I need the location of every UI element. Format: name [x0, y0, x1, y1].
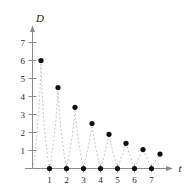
x-tick-label: 1 — [47, 175, 52, 185]
x-tick-labels: 1 2 3 4 5 6 7 — [47, 175, 154, 185]
data-point — [132, 166, 137, 171]
y-tick-label: 6 — [21, 56, 26, 66]
y-axis-arrow-icon — [30, 25, 35, 32]
x-tick-label: 4 — [98, 175, 103, 185]
x-axis-title: t — [178, 162, 182, 174]
data-point — [64, 166, 69, 171]
data-point — [89, 121, 94, 126]
y-tick-label: 5 — [21, 74, 26, 84]
data-point — [149, 166, 154, 171]
data-point — [157, 152, 162, 157]
x-tick-label: 6 — [132, 175, 137, 185]
data-point — [106, 132, 111, 137]
data-point — [123, 141, 128, 146]
y-tick-label: 1 — [21, 146, 26, 156]
x-tick-label: 2 — [64, 175, 69, 185]
data-point — [47, 166, 52, 171]
y-tick-label: 2 — [21, 128, 26, 138]
data-point — [72, 105, 77, 110]
peak-data-points — [38, 58, 162, 157]
y-tick-label: 4 — [21, 92, 26, 102]
x-tick-label: 3 — [81, 175, 86, 185]
y-tick-label: 7 — [21, 38, 26, 48]
data-point — [38, 58, 43, 63]
x-tick-label: 7 — [149, 175, 154, 185]
data-point — [55, 85, 60, 90]
chart-figure: 1 2 3 4 5 6 7 1 2 3 4 5 6 7 D t — [0, 0, 190, 195]
x-tick-label: 5 — [115, 175, 120, 185]
data-point — [81, 166, 86, 171]
data-point — [98, 166, 103, 171]
damped-curve — [33, 61, 160, 169]
damped-oscillation-chart: 1 2 3 4 5 6 7 1 2 3 4 5 6 7 D t — [0, 0, 190, 195]
y-tick-label: 3 — [21, 110, 26, 120]
y-tick-labels: 1 2 3 4 5 6 7 — [21, 38, 26, 156]
data-point — [140, 147, 145, 152]
x-axis-arrow-icon — [166, 166, 173, 171]
data-point — [115, 166, 120, 171]
y-axis-title: D — [35, 12, 44, 24]
